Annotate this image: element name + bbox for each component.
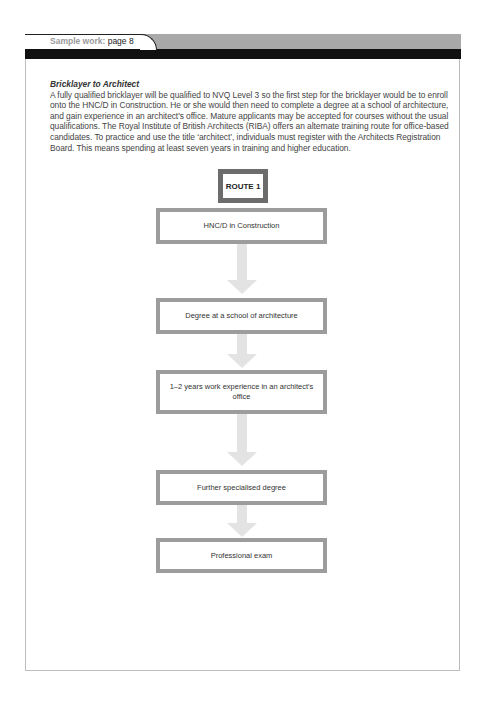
down-arrow-icon [227,244,257,298]
route-label-box: ROUTE 1 [218,169,268,203]
article: Bricklayer to Architect A fully qualifie… [50,79,450,153]
flow-step-professional-exam: Professional exam [156,538,327,573]
flow-step-specialised-degree: Further specialised degree [156,470,327,505]
page-label: Sample work: page 8 [50,36,134,47]
down-arrow-icon [227,505,257,538]
article-body: A fully qualified bricklayer will be qua… [50,90,450,154]
article-title: Bricklayer to Architect [50,79,450,90]
flow-step-hnc: HNC/D in Construction [156,208,327,244]
page-number: page 8 [108,36,134,46]
flow-step-work-experience: 1–2 years work experience in an architec… [156,370,327,414]
down-arrow-icon [227,334,257,370]
flow-step-degree: Degree at a school of architecture [156,298,327,334]
header-bar [25,49,461,59]
down-arrow-icon [227,414,257,470]
page-label-prefix: Sample work: [50,36,105,46]
